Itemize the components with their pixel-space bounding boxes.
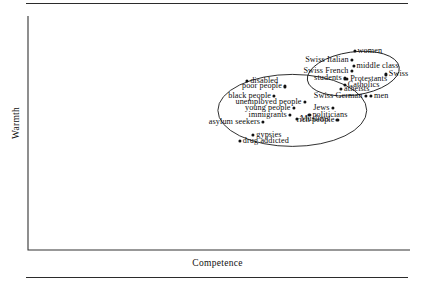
data-point-label: rich people bbox=[297, 116, 335, 124]
data-point-label: Swiss German bbox=[314, 92, 363, 100]
scatter-plot: womenSwiss Italianmiddle classSwiss Fren… bbox=[0, 0, 435, 288]
data-point-label: poor people bbox=[242, 82, 282, 90]
data-point-label: students bbox=[314, 74, 342, 82]
data-point-label: asylum seekers bbox=[209, 117, 260, 125]
x-axis-label: Competence bbox=[0, 258, 435, 268]
data-point-label: men bbox=[374, 92, 388, 100]
cluster-outline-layer bbox=[0, 0, 435, 288]
y-axis-label: Warmth bbox=[11, 93, 21, 153]
data-point-label: Swiss Italian bbox=[305, 56, 348, 64]
figure-panel: womenSwiss Italianmiddle classSwiss Fren… bbox=[0, 0, 435, 288]
data-point-label: drug addicted bbox=[243, 137, 289, 145]
data-point-label: women bbox=[358, 47, 383, 55]
data-point-label: Swiss bbox=[389, 70, 409, 78]
